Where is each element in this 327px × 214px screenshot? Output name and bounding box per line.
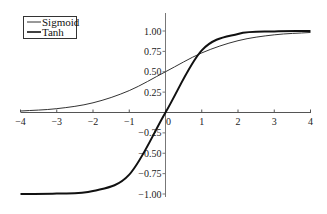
x-tick-label: 0 — [166, 116, 171, 127]
x-tick-label: −1 — [124, 116, 135, 127]
y-tick-label: 1.00 — [144, 26, 162, 37]
y-tick-label: −0.25 — [138, 127, 161, 138]
legend-label-tanh: Tanh — [42, 26, 64, 38]
x-tick-label: 2 — [236, 116, 241, 127]
x-tick-label: 3 — [272, 116, 277, 127]
axes: −4−3−2−101234 −1.00−0.75−0.50−0.250.250.… — [15, 13, 313, 200]
x-tick-label: −3 — [51, 116, 62, 127]
x-tick-label: −4 — [15, 116, 26, 127]
legend: Sigmoid Tanh — [24, 16, 80, 39]
x-tick-label: 1 — [199, 116, 204, 127]
y-tick-label: 0.75 — [144, 46, 162, 57]
y-tick-label: −1.00 — [138, 189, 161, 200]
y-tick-label: 0.25 — [144, 87, 162, 98]
activation-functions-chart: −4−3−2−101234 −1.00−0.75−0.50−0.250.250.… — [0, 0, 327, 214]
x-tick-label: −2 — [88, 116, 99, 127]
x-tick-label: 4 — [308, 116, 313, 127]
y-tick-label: −0.75 — [138, 168, 161, 179]
